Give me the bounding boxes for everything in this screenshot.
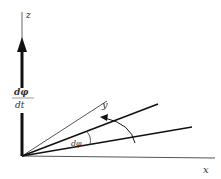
x-axis	[22, 156, 215, 158]
z-axis-label: z	[25, 10, 31, 20]
rate-numerator: dφ	[14, 87, 29, 97]
rate-denominator: dt	[15, 100, 25, 110]
angular-velocity-diagram: z dφ dt x y dφ	[0, 0, 221, 179]
angle-label: dφ	[71, 139, 82, 148]
x-axis-label: x	[203, 164, 209, 175]
y-axis-label: y	[101, 99, 108, 110]
rotation-arrowhead-icon	[100, 114, 108, 121]
diagram-canvas: z dφ dt x y dφ	[0, 0, 221, 179]
rotated-x-axis	[22, 127, 192, 156]
vector-arrowhead-icon	[17, 37, 27, 52]
angle-arc	[86, 131, 91, 145]
